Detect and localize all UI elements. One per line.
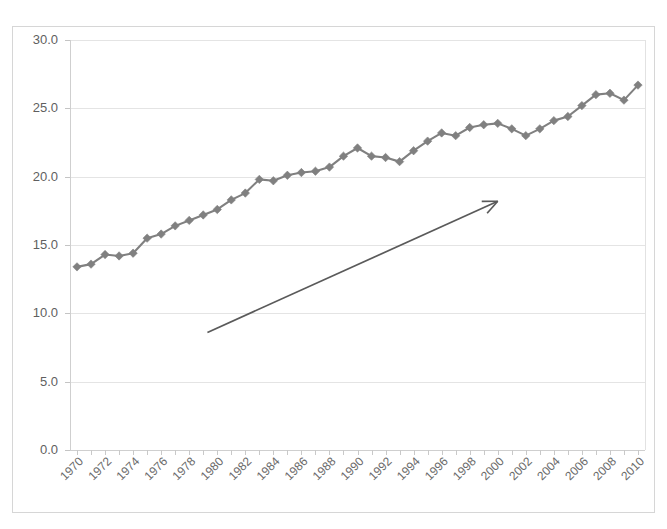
x-axis-tick-label: 1996 xyxy=(422,454,451,483)
data-point-marker xyxy=(283,171,291,179)
data-point-marker xyxy=(171,222,179,230)
data-point-marker xyxy=(199,211,207,219)
x-axis-tick-label: 2002 xyxy=(506,454,535,483)
y-axis-tick-labels: 0.05.010.015.020.025.030.0 xyxy=(33,32,58,457)
y-axis-tick-label: 10.0 xyxy=(33,305,58,320)
x-axis-tick-label: 1976 xyxy=(142,454,171,483)
x-axis-tick-label: 1988 xyxy=(310,454,339,483)
x-axis-tick-label: 1992 xyxy=(366,454,395,483)
data-point-marker xyxy=(115,252,123,260)
series-polyline xyxy=(77,85,638,267)
data-point-marker xyxy=(353,144,361,152)
y-axis-tick-label: 30.0 xyxy=(33,32,58,47)
data-point-marker xyxy=(480,121,488,129)
x-axis-tick-label: 1978 xyxy=(170,454,199,483)
y-axis-tick-label: 5.0 xyxy=(40,374,58,389)
data-point-marker xyxy=(522,131,530,139)
data-point-marker xyxy=(157,230,165,238)
x-axis-tick-label: 2006 xyxy=(562,454,591,483)
gridlines xyxy=(70,41,645,383)
data-point-marker xyxy=(185,216,193,224)
trend-arrow-shaft xyxy=(207,201,497,332)
data-point-marker xyxy=(606,89,614,97)
x-axis-tick-label: 2010 xyxy=(618,454,647,483)
data-point-marker xyxy=(73,263,81,271)
y-axis-tick-label: 15.0 xyxy=(33,237,58,252)
chart-figure: 0.05.010.015.020.025.030.0 1970197219741… xyxy=(0,0,667,529)
data-point-marker xyxy=(466,123,474,131)
data-series-line xyxy=(77,85,638,267)
x-axis-tick-label: 1974 xyxy=(113,454,142,483)
x-axis-tick-label: 1998 xyxy=(450,454,479,483)
x-axis-tick-label: 1970 xyxy=(57,454,86,483)
x-axis-tick-label: 1982 xyxy=(226,454,255,483)
data-point-marker xyxy=(297,168,305,176)
x-axis-tick-labels: 1970197219741976197819801982198419861988… xyxy=(57,454,647,483)
line-chart: 0.05.010.015.020.025.030.0 1970197219741… xyxy=(0,0,667,529)
x-axis-tick-label: 1972 xyxy=(85,454,114,483)
data-series-markers xyxy=(73,81,642,271)
data-point-marker xyxy=(437,129,445,137)
x-axis-tick-label: 1980 xyxy=(198,454,227,483)
x-axis-tick-label: 1990 xyxy=(338,454,367,483)
data-point-marker xyxy=(367,152,375,160)
data-point-marker xyxy=(494,119,502,127)
y-axis-tick-label: 20.0 xyxy=(33,169,58,184)
x-axis-tick-label: 1984 xyxy=(254,454,283,483)
x-axis-tick-label: 1994 xyxy=(394,454,423,483)
x-axis-ticks xyxy=(78,450,639,455)
x-axis-tick-label: 2004 xyxy=(534,454,563,483)
data-point-marker xyxy=(536,125,544,133)
trend-arrow xyxy=(207,201,497,332)
y-axis-ticks xyxy=(65,41,70,451)
data-point-marker xyxy=(508,125,516,133)
data-point-marker xyxy=(451,131,459,139)
data-point-marker xyxy=(311,167,319,175)
x-axis-tick-label: 1986 xyxy=(282,454,311,483)
y-axis-tick-label: 25.0 xyxy=(33,100,58,115)
x-axis-tick-label: 2008 xyxy=(590,454,619,483)
y-axis-tick-label: 0.0 xyxy=(40,442,58,457)
data-point-marker xyxy=(381,153,389,161)
x-axis-tick-label: 2000 xyxy=(478,454,507,483)
data-point-marker xyxy=(550,116,558,124)
